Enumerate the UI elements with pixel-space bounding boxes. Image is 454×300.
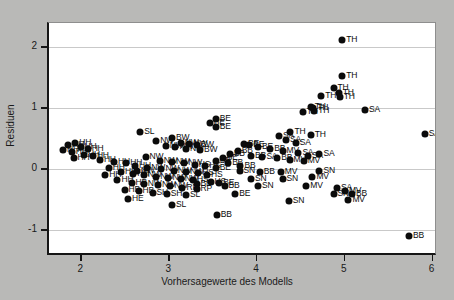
data-point-label: MV <box>352 195 364 203</box>
data-point <box>421 131 428 138</box>
data-point <box>330 190 337 197</box>
x-tick-mark <box>432 255 434 261</box>
data-point-label: SL <box>190 190 200 198</box>
data-point-label: HS <box>215 177 226 185</box>
x-axis-label: Vorhersagewerte des Modells <box>0 276 454 287</box>
y-tick-mark <box>41 168 47 170</box>
y-tick-label: 2 <box>17 40 37 51</box>
data-point-label: SH <box>171 189 182 197</box>
data-point <box>168 201 175 208</box>
y-axis-label: Residuen <box>5 104 16 146</box>
data-point-label: SN <box>262 181 273 189</box>
data-point-label: HH <box>113 163 125 171</box>
data-point-label: TH <box>307 107 318 115</box>
data-point-label: SL <box>144 127 154 135</box>
figure-canvas: THTHTHTHTHTHTHTHTHTHSASATHSASASATHBEBEBE… <box>0 0 454 300</box>
data-point <box>276 132 283 139</box>
data-point-label: SN <box>293 196 304 204</box>
data-point <box>318 93 325 100</box>
x-tick-mark <box>168 255 170 261</box>
data-point-label: SN <box>287 174 298 182</box>
data-point <box>236 167 243 174</box>
y-tick-mark <box>41 107 47 109</box>
data-point <box>300 157 307 164</box>
data-point <box>121 187 128 194</box>
data-point-label: SA <box>323 149 334 157</box>
y-tick-label: -1 <box>17 223 37 234</box>
y-tick-label: 1 <box>17 101 37 112</box>
plot-area: THTHTHTHTHTHTHTHTHTHSASATHSASASATHBEBEBE… <box>47 22 436 255</box>
x-tick-mark <box>344 255 346 261</box>
data-point <box>285 198 292 205</box>
data-point <box>277 168 284 175</box>
data-point <box>279 176 286 183</box>
data-point <box>133 167 140 174</box>
data-point <box>339 73 346 80</box>
data-point <box>207 178 214 185</box>
data-point <box>336 93 343 100</box>
data-point <box>345 196 352 203</box>
data-point-label: SA <box>429 129 436 137</box>
data-point <box>406 233 413 240</box>
data-point-label: BB <box>221 210 232 218</box>
data-point <box>254 183 261 190</box>
data-point <box>162 143 169 150</box>
data-point <box>182 145 189 152</box>
data-point <box>125 195 132 202</box>
x-tick-mark <box>80 255 82 261</box>
x-tick-label: 5 <box>334 263 354 274</box>
data-point-label: MV <box>308 156 320 164</box>
data-point <box>137 128 144 135</box>
x-tick-mark <box>256 255 258 261</box>
data-point-label: NW <box>141 166 155 174</box>
data-point-label: TH <box>346 71 357 79</box>
y-tick-mark <box>41 229 47 231</box>
data-point-label: BB <box>229 181 240 189</box>
data-point <box>309 173 316 180</box>
data-point <box>89 152 96 159</box>
data-point-label: TH <box>344 92 355 100</box>
data-point <box>259 154 266 161</box>
data-point <box>70 155 77 162</box>
data-point-label: BW <box>204 145 217 153</box>
data-point-label: TH <box>325 91 336 99</box>
data-point-label: TH <box>318 106 329 114</box>
data-point <box>163 190 170 197</box>
y-tick-label: 0 <box>17 162 37 173</box>
data-point <box>60 146 67 153</box>
data-point <box>96 156 103 163</box>
data-point-label: SA <box>369 105 380 113</box>
x-tick-label: 2 <box>70 263 90 274</box>
gridline-y--1 <box>49 230 435 231</box>
data-point <box>182 192 189 199</box>
data-point <box>247 176 254 183</box>
data-point-label: SL <box>176 200 186 208</box>
data-point-label: BE <box>220 122 231 130</box>
data-point <box>247 152 254 159</box>
data-point <box>212 124 219 131</box>
data-point <box>153 138 160 145</box>
data-point <box>274 155 281 162</box>
data-point-label: MV <box>316 172 328 180</box>
data-point <box>105 165 112 172</box>
data-point <box>172 144 179 151</box>
data-point <box>362 106 369 113</box>
data-point-label: SA <box>300 138 311 146</box>
data-point-label: TH <box>346 35 357 43</box>
data-point <box>213 211 220 218</box>
data-point-label: BE <box>239 189 250 197</box>
data-point-label: BB <box>413 231 424 239</box>
data-point <box>232 190 239 197</box>
x-tick-label: 6 <box>422 263 442 274</box>
data-point-label: MV <box>310 181 322 189</box>
data-point <box>197 146 204 153</box>
data-point <box>339 37 346 44</box>
x-tick-label: 4 <box>246 263 266 274</box>
data-point <box>307 131 314 138</box>
gridline-y-2 <box>49 47 435 48</box>
data-point <box>303 183 310 190</box>
data-point-label: SN <box>244 166 255 174</box>
y-tick-mark <box>41 46 47 48</box>
data-point <box>299 109 306 116</box>
data-point-label: HH <box>78 153 90 161</box>
